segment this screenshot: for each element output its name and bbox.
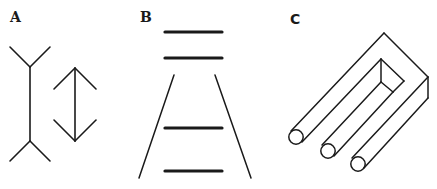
muller-lyer-illusion (10, 47, 96, 161)
figure-drawing (0, 0, 437, 189)
tine-end-2 (321, 144, 335, 158)
fins-in-segment (54, 68, 96, 141)
ponzo-illusion (139, 32, 251, 178)
tine-end-1 (289, 130, 303, 144)
impossible-trident (289, 33, 428, 171)
tine-end-3 (351, 157, 365, 171)
illusion-figure: A B C (0, 0, 437, 189)
fins-out-segment (10, 47, 50, 161)
